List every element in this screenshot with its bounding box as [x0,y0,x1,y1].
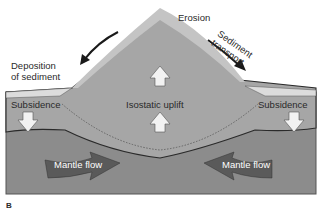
isostatic-uplift-label: Isostatic uplift [126,99,184,110]
deposition-line2: of sediment [11,71,60,82]
mantle-flow-label-left: Mantle flow [54,159,102,170]
erosion-label: Erosion [178,12,210,23]
subsidence-label-left: Subsidence [11,99,61,110]
deposition-line1: Deposition [11,60,60,71]
subsidence-label-right: Subsidence [258,99,308,110]
deposition-label: Deposition of sediment [11,60,60,82]
mantle-flow-label-right: Mantle flow [222,159,270,170]
panel-label: B [6,200,12,211]
